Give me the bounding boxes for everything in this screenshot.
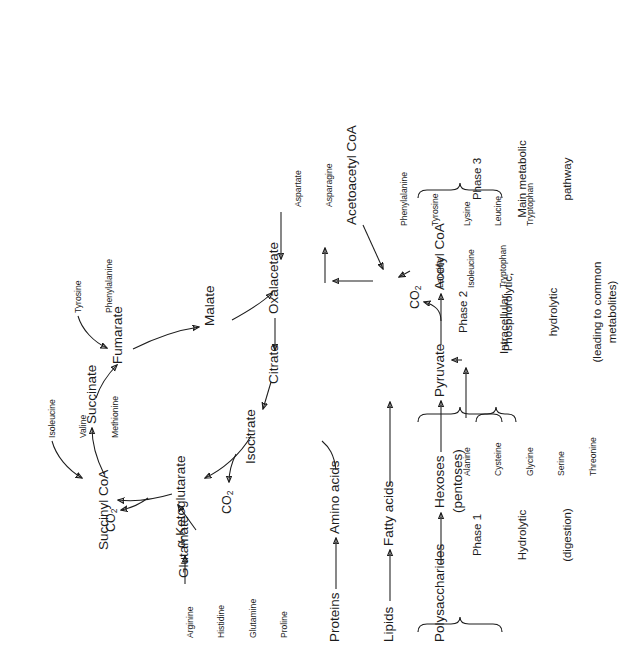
aa-item: Proline bbox=[279, 599, 289, 638]
phase-line2: Hydrolytic bbox=[515, 460, 530, 610]
phase-line3: pathway bbox=[560, 104, 575, 254]
byproduct-co2-isocitrate: CO2 bbox=[220, 490, 236, 514]
phase-title: Phase 3 bbox=[470, 104, 485, 254]
aa-item: Phenylalanine bbox=[104, 259, 114, 313]
node-fumarate: Fumarate bbox=[110, 306, 125, 364]
node-fatty-acids: Fatty acids bbox=[381, 481, 396, 546]
compartment-label: Intracellular bbox=[498, 295, 511, 354]
phase-3-caption: Phase 3 Main metabolic pathway bbox=[440, 104, 604, 254]
phase-line2: Main metabolic bbox=[515, 104, 530, 254]
node-citrate: Citrate bbox=[266, 344, 281, 384]
node-lipids: Lipids bbox=[381, 607, 396, 642]
aa-group-to-glutamate: Arginine Histidine Glutamine Proline bbox=[164, 599, 311, 638]
aa-item: Valine bbox=[78, 396, 88, 438]
aa-item: Aspartate bbox=[293, 164, 303, 207]
aa-item: Isoleucine bbox=[47, 396, 57, 438]
phase-title: Phase 1 bbox=[470, 460, 485, 610]
aa-item: Asparagine bbox=[324, 164, 334, 207]
phase-line3: (digestion) bbox=[560, 460, 575, 610]
aa-item: Glutamine bbox=[248, 599, 258, 638]
aa-item: Tyrosine bbox=[73, 259, 83, 313]
node-isocitrate: Isocitrate bbox=[243, 409, 258, 464]
node-amino-acids: Amino acids bbox=[327, 460, 342, 534]
aa-group-to-fumarate: Tyrosine Phenylalanine bbox=[52, 259, 136, 313]
aa-item: Histidine bbox=[216, 599, 226, 638]
aa-item: Phenylalanine bbox=[399, 172, 409, 226]
aa-item: Arginine bbox=[185, 599, 195, 638]
byproduct-co2-pyruvate: CO2 bbox=[408, 285, 424, 309]
aa-group-to-oxalacetate: Aspartate Asparagine bbox=[272, 164, 356, 207]
node-oxalacetate: Oxalacetate bbox=[266, 242, 281, 314]
node-malate: Malate bbox=[202, 285, 217, 326]
aa-group-to-succinyl-coa: Isoleucine Valine Methionine bbox=[26, 396, 141, 438]
node-succinyl-coa: Succinyl CoA bbox=[96, 470, 111, 550]
node-glutamate: Glutamate bbox=[176, 516, 191, 578]
aa-item: Methionine bbox=[110, 396, 120, 438]
phase-1-caption: Phase 1 Hydrolytic (digestion) bbox=[440, 460, 604, 610]
node-proteins: Proteins bbox=[327, 592, 342, 642]
